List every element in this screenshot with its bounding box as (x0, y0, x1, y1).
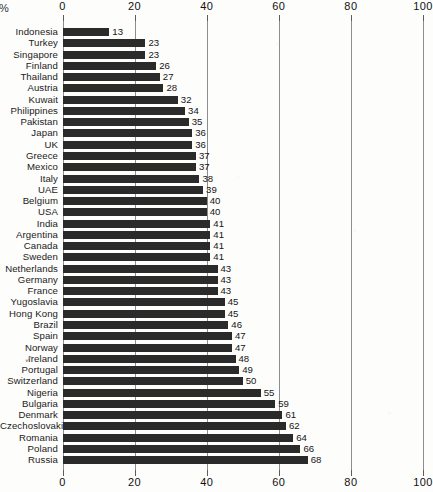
category-label-kuwait: Kuwait (0, 94, 58, 105)
category-label-india: India (0, 218, 58, 229)
bar-norway (63, 344, 232, 352)
category-label-denmark: Denmark (0, 409, 58, 420)
category-label-greece: Greece (0, 150, 58, 161)
bar-portugal (63, 366, 240, 374)
bar-brazil (63, 321, 229, 329)
bar-row: Japan36 (0, 128, 433, 139)
bottom-axis-tick-mark-0 (63, 470, 64, 476)
bar-row: Netherlands43 (0, 264, 433, 275)
bar-value-belgium: 40 (210, 195, 221, 206)
bar-usa (63, 208, 207, 216)
category-label-norway: Norway (0, 342, 58, 353)
top-axis-tick-label-40: 40 (200, 0, 213, 12)
category-label-france: France (0, 285, 58, 296)
bar-value-finland: 26 (159, 60, 170, 71)
bar-mexico (63, 163, 196, 171)
bar-indonesia (63, 28, 110, 36)
category-label-czechoslovakia: Czechoslovakia (0, 420, 58, 431)
bar-spain (63, 332, 232, 340)
bar-value-uae: 39 (206, 184, 217, 195)
bar-value-turkey: 23 (148, 37, 159, 48)
bar-kuwait (63, 96, 178, 104)
bar-rows: Indonesia13Turkey23Singapore23Finland26T… (0, 21, 433, 470)
category-label-switzerland: Switzerland (0, 375, 58, 386)
bar-czechoslovakia (63, 422, 287, 430)
bar-row: Greece37 (0, 151, 433, 162)
category-label-thailand: Thailand (0, 71, 58, 82)
category-label-romania: Romania (0, 432, 58, 443)
bar-value-argentina: 41 (213, 229, 224, 240)
bar-argentina (63, 231, 211, 239)
category-label-uae: UAE (0, 184, 58, 195)
bar-singapore (63, 51, 146, 59)
bar-value-france: 43 (221, 285, 232, 296)
bar-row: Poland66 (0, 444, 433, 455)
bottom-axis-tick-label-80: 80 (344, 476, 357, 488)
category-label-bulgaria: Bulgaria (0, 398, 58, 409)
bottom-axis-tick-mark-40 (207, 470, 208, 476)
bar-value-uk: 36 (195, 139, 206, 150)
bar-value-denmark: 61 (285, 409, 296, 420)
category-label-brazil: Brazil (0, 319, 58, 330)
category-label-austria: Austria (0, 82, 58, 93)
category-label-germany: Germany (0, 274, 58, 285)
bar-value-sweden: 41 (213, 251, 224, 262)
category-label-russia: Russia (0, 454, 58, 465)
category-label-yugoslavia: Yugoslavia (0, 296, 58, 307)
top-axis-tick-label-100: 100 (413, 0, 433, 12)
bar-value-yugoslavia: 45 (228, 296, 239, 307)
bottom-axis-tick-label-100: 100 (413, 476, 433, 488)
bar-row: Portugal49 (0, 365, 433, 376)
bar-value-usa: 40 (210, 206, 221, 217)
bar-uae (63, 186, 204, 194)
bar-value-romania: 64 (296, 432, 307, 443)
bar-value-japan: 36 (195, 127, 206, 138)
category-label-indonesia: Indonesia (0, 26, 58, 37)
bar-row: Spain47 (0, 331, 433, 342)
bar-turkey (63, 39, 146, 47)
bar-row: Sweden41 (0, 252, 433, 263)
bar-value-netherlands: 43 (221, 263, 232, 274)
bar-value-portugal: 49 (242, 364, 253, 375)
bar-finland (63, 62, 157, 70)
top-axis-tick-label-0: 0 (59, 0, 66, 12)
bar-value-austria: 28 (166, 82, 177, 93)
bar-chart: % 020406080100 Indonesia13Turkey23Singap… (0, 0, 433, 492)
bottom-axis-tick-label-20: 20 (128, 476, 141, 488)
bar-row: Yugoslavia45 (0, 297, 433, 308)
bar-value-bulgaria: 59 (278, 398, 289, 409)
bar-hong-kong (63, 310, 225, 318)
category-label-argentina: Argentina (0, 229, 58, 240)
bar-value-poland: 66 (303, 443, 314, 454)
category-label-hong-kong: Hong Kong (0, 308, 58, 319)
bar-value-greece: 37 (199, 150, 210, 161)
bar-netherlands (63, 265, 218, 273)
bar-row: Russia68 (0, 455, 433, 466)
bar-romania (63, 434, 294, 442)
bar-switzerland (63, 377, 243, 385)
bar-value-singapore: 23 (148, 49, 159, 60)
bar-row: Norway47 (0, 343, 433, 354)
bar-value-kuwait: 32 (181, 94, 192, 105)
bar-value-indonesia: 13 (112, 26, 123, 37)
bar-row: Austria28 (0, 83, 433, 94)
bar-value-nigeria: 55 (264, 387, 275, 398)
category-label-finland: Finland (0, 60, 58, 71)
bar-value-italy: 38 (202, 173, 213, 184)
bar-row: Brazil46 (0, 320, 433, 331)
bar-value-india: 41 (213, 218, 224, 229)
category-label-pakistan: Pakistan (0, 116, 58, 127)
bar-row: Mexico37 (0, 162, 433, 173)
bar-row: Thailand27 (0, 72, 433, 83)
category-label-canada: Canada (0, 240, 58, 251)
bar-row: Nigeria55 (0, 388, 433, 399)
bar-ireland (63, 355, 236, 363)
bottom-axis-tick-label-60: 60 (272, 476, 285, 488)
bar-row: Hong Kong45 (0, 309, 433, 320)
bar-row: Pakistan35 (0, 117, 433, 128)
category-label-nigeria: Nigeria (0, 387, 58, 398)
bar-row: Bulgaria59 (0, 399, 433, 410)
bar-value-spain: 47 (235, 330, 246, 341)
bar-row: Switzerland50 (0, 376, 433, 387)
bar-row: Romania64 (0, 433, 433, 444)
